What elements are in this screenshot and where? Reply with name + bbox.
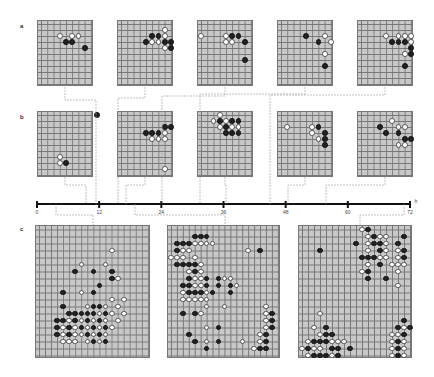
white-stone [359,269,365,275]
black-stone [180,241,186,247]
black-stone [329,332,335,338]
black-stone [323,325,329,331]
white-stone [389,346,395,352]
black-stone [383,276,389,282]
white-stone [162,166,168,172]
black-stone [223,124,229,130]
black-stone [97,283,103,289]
white-stone [305,353,311,359]
black-stone [162,39,168,45]
black-stone [143,39,149,45]
white-stone [91,318,97,324]
white-stone [121,311,127,317]
board-b-2 [117,111,173,177]
black-stone [103,311,109,317]
white-stone [180,290,186,296]
white-stone [389,118,395,124]
white-stone [383,33,389,39]
black-stone [217,118,223,124]
black-stone [389,39,395,45]
white-stone [240,339,246,345]
black-stone [322,136,328,142]
white-stone [79,262,85,268]
white-stone [317,346,323,352]
black-stone [395,353,401,359]
black-stone [174,248,180,254]
black-stone [317,339,323,345]
white-stone [311,346,317,352]
black-stone [401,332,407,338]
black-stone [317,248,323,254]
white-stone [222,304,228,310]
black-stone [180,311,186,317]
white-stone [395,283,401,289]
black-stone [79,311,85,317]
board-b-5 [357,111,413,177]
black-stone [269,325,275,331]
black-stone [408,51,414,57]
white-stone [341,339,347,345]
white-stone [365,234,371,240]
white-stone [402,33,408,39]
white-stone [329,353,335,359]
black-stone [257,346,263,352]
white-stone [317,311,323,317]
board-c-3 [298,225,412,358]
white-stone [217,112,223,118]
white-stone [69,33,75,39]
black-stone [323,339,329,345]
black-stone [186,241,192,247]
black-stone [329,346,335,352]
black-stone [408,136,414,142]
black-stone [174,262,180,268]
black-stone [109,269,115,275]
black-stone [263,332,269,338]
black-stone [236,118,242,124]
black-stone [396,130,402,136]
black-stone [359,255,365,261]
black-stone [149,33,155,39]
panel-label-a: a [20,23,23,29]
black-stone [401,255,407,261]
black-stone [322,142,328,148]
black-stone [353,241,359,247]
white-stone [66,339,72,345]
black-stone [97,332,103,338]
white-stone [204,290,210,296]
white-stone [223,33,229,39]
black-stone [311,339,317,345]
white-stone [91,332,97,338]
black-stone [335,353,341,359]
board-b-4 [277,111,333,177]
white-stone [186,269,192,275]
white-stone [377,255,383,261]
white-stone [192,241,198,247]
white-stone [72,339,78,345]
white-stone [383,255,389,261]
white-stone [72,332,78,338]
board-a-4 [277,20,333,86]
white-stone [66,318,72,324]
white-stone [204,297,210,303]
black-stone [317,353,323,359]
black-stone [69,39,75,45]
black-stone [168,45,174,51]
white-stone [401,339,407,345]
black-stone [109,276,115,282]
board-a-1 [37,20,93,86]
black-stone [223,130,229,136]
black-stone [229,130,235,136]
white-stone [156,39,162,45]
black-stone [192,311,198,317]
black-stone [303,33,309,39]
black-stone [377,248,383,254]
white-stone [383,234,389,240]
black-stone [66,325,72,331]
black-stone [371,255,377,261]
white-stone [305,339,311,345]
white-stone [198,269,204,275]
black-stone [322,130,328,136]
black-stone [192,234,198,240]
white-stone [359,227,365,233]
white-stone [180,255,186,261]
